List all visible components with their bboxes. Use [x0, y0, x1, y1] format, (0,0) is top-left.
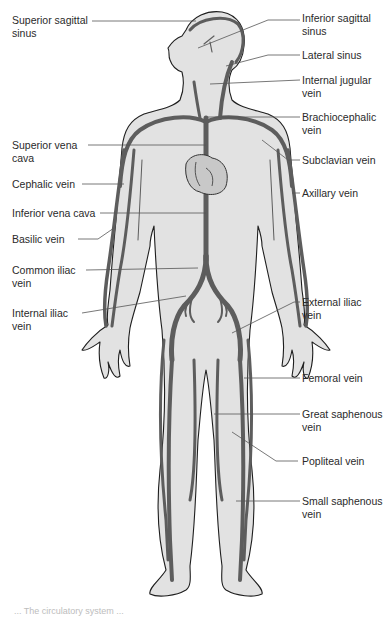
label-lateral-sinus: Lateral sinus	[302, 49, 362, 62]
label-superior-sagittal-sinus: Superior sagittal sinus	[12, 14, 88, 40]
label-brachiocephalic-vein: Brachiocephalic vein	[302, 111, 376, 137]
label-superior-vena-cava: Superior vena cava	[12, 139, 77, 165]
label-femoral-vein: Femoral vein	[302, 372, 363, 385]
label-cephalic-vein: Cephalic vein	[12, 178, 75, 191]
label-internal-jugular-vein: Internal jugular vein	[302, 74, 371, 100]
label-basilic-vein: Basilic vein	[12, 233, 65, 246]
figure-caption: ... The circulatory system ...	[14, 606, 124, 616]
label-subclavian-vein: Subclavian vein	[302, 154, 376, 167]
label-popliteal-vein: Popliteal vein	[302, 455, 364, 468]
label-small-saphenous-vein: Small saphenous vein	[302, 495, 383, 521]
label-great-saphenous-vein: Great saphenous vein	[302, 408, 383, 434]
label-inferior-vena-cava: Inferior vena cava	[12, 207, 95, 220]
body-silhouette	[82, 12, 330, 596]
label-axillary-vein: Axillary vein	[302, 187, 358, 200]
label-internal-iliac-vein: Internal iliac vein	[12, 307, 68, 333]
label-common-iliac-vein: Common iliac vein	[12, 264, 76, 290]
label-inferior-sagittal-sinus: Inferior sagittal sinus	[302, 12, 371, 38]
label-external-iliac-vein: External iliac vein	[302, 296, 362, 322]
